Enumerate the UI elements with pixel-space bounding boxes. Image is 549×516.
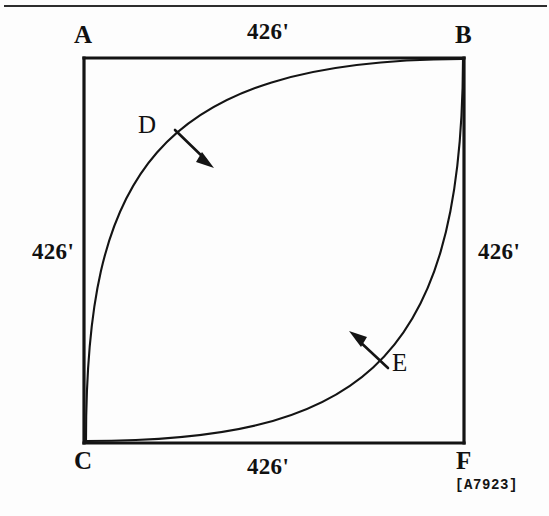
dimension-label-bottom: 426' [247, 455, 289, 478]
diagram-svg [0, 0, 549, 516]
arrow-to-curve-e [349, 331, 388, 368]
arrow-to-curve-d [175, 130, 214, 168]
curve-label-e: E [392, 350, 407, 375]
corner-label-f: F [456, 448, 471, 473]
diagram-canvas [0, 0, 549, 516]
dimension-label-top: 426' [247, 20, 289, 43]
corner-label-a: A [74, 22, 92, 47]
figure-root: A B C F 426' 426' 426' 426' D E [A7923] [0, 0, 549, 516]
dimension-label-right: 426' [478, 240, 520, 263]
curve-label-d: D [138, 112, 156, 137]
corner-label-c: C [74, 448, 92, 473]
corner-label-b: B [455, 22, 472, 47]
figure-code: [A7923] [455, 478, 518, 492]
dimension-label-left: 426' [32, 240, 74, 263]
